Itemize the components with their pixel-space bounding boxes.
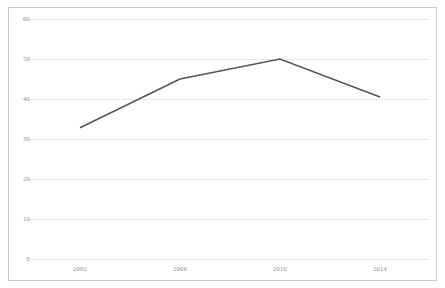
x-tick-label-2006: 2006 <box>160 266 200 273</box>
y-tick-label-40: 40 <box>12 96 30 103</box>
y-tick-label-10: 10 <box>12 216 30 223</box>
x-tick-label-2010: 2010 <box>260 266 300 273</box>
data-series-line <box>80 59 380 128</box>
gridlines <box>30 20 430 260</box>
y-tick-label-0: 0 <box>12 256 30 263</box>
line-chart: 60 50 40 30 20 10 0 2002 2006 2010 2014 <box>0 0 445 288</box>
y-tick-label-30: 30 <box>12 136 30 143</box>
x-tick-label-2002: 2002 <box>60 266 100 273</box>
x-tick-label-2014: 2014 <box>360 266 400 273</box>
plot-area <box>0 0 445 288</box>
y-tick-label-20: 20 <box>12 176 30 183</box>
y-tick-label-60: 60 <box>12 16 30 23</box>
y-tick-label-50: 50 <box>12 56 30 63</box>
